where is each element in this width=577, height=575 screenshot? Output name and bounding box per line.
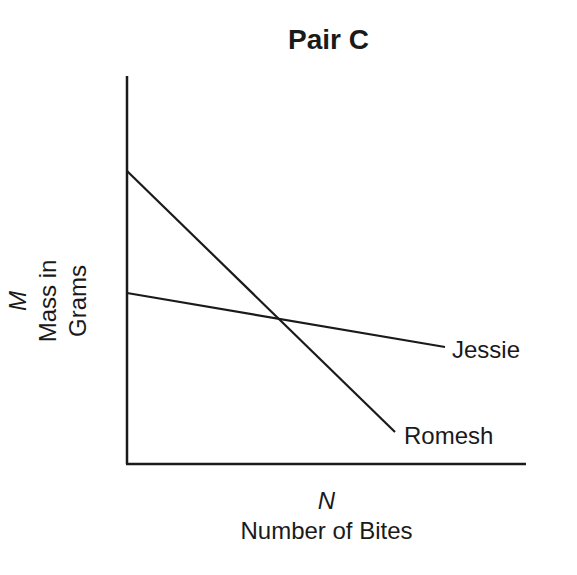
x-axis-label: N Number of Bites bbox=[127, 486, 526, 546]
series-label-jessie: Jessie bbox=[452, 336, 520, 364]
y-axis-title: Mass in Grams bbox=[34, 260, 91, 343]
series-label-romesh: Romesh bbox=[404, 422, 493, 450]
x-axis-title: Number of Bites bbox=[240, 517, 412, 544]
series-line-jessie bbox=[127, 293, 445, 347]
y-axis-label: M Mass in Grams bbox=[3, 241, 93, 361]
y-axis-variable: M bbox=[3, 241, 33, 361]
series-line-romesh bbox=[127, 171, 395, 432]
x-axis-variable: N bbox=[127, 486, 526, 516]
